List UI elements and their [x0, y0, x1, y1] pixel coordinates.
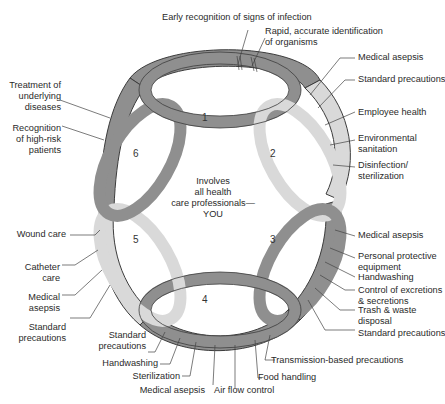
label-standard-precautions-5: Standard precautions — [8, 322, 66, 344]
label-disinfection-sterilization: Disinfection/ sterilization — [358, 160, 408, 182]
label-medical-asepsis-5: Medical asepsis — [8, 292, 60, 314]
label-medical-asepsis-2: Medical asepsis — [358, 52, 423, 63]
label-handwashing-3: Handwashing — [358, 272, 414, 283]
label-control-excretions: Control of excretions & secretions — [358, 285, 442, 307]
loop-number-2: 2 — [270, 148, 276, 159]
label-standard-precautions-4: Standard precautions — [88, 330, 146, 352]
label-standard-precautions-2: Standard precautions — [358, 74, 445, 85]
label-medical-asepsis-4: Medical asepsis — [130, 385, 205, 396]
label-employee-health: Employee health — [358, 107, 426, 118]
loop-number-3: 3 — [270, 234, 276, 245]
label-sterilization: Sterilization — [110, 371, 180, 382]
label-ppe: Personal protective equipment — [358, 251, 437, 273]
label-rapid-identification: Rapid, accurate identification of organi… — [265, 26, 383, 48]
loop-number-6: 6 — [133, 148, 139, 159]
label-recognition-high-risk: Recognition of high-risk patients — [4, 123, 61, 156]
loop-number-5: 5 — [133, 234, 139, 245]
loop-6 — [100, 78, 145, 208]
label-treatment-underlying: Treatment of underlying diseases — [4, 80, 61, 113]
label-early-recognition: Early recognition of signs of infection — [162, 12, 312, 23]
loop-number-4: 4 — [202, 294, 208, 305]
loop-number-1: 1 — [202, 112, 208, 123]
label-catheter-care: Catheter care — [8, 262, 60, 284]
center-text: Involves all health care professionals— … — [168, 176, 258, 220]
label-handwashing-4: Handwashing — [88, 358, 158, 369]
label-transmission-based: Transmission-based precautions — [271, 355, 403, 366]
label-medical-asepsis-3: Medical asepsis — [358, 230, 423, 241]
label-standard-precautions-3: Standard precautions — [358, 328, 445, 339]
label-air-flow-control: Air flow control — [214, 385, 274, 396]
label-food-handling: Food handling — [258, 372, 316, 383]
label-wound-care: Wound care — [8, 229, 66, 240]
label-trash-disposal: Trash & waste disposal — [358, 305, 416, 327]
label-environmental-sanitation: Environmental sanitation — [358, 133, 417, 155]
